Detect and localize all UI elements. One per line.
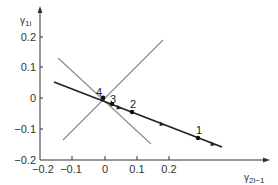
x-tick-label: 0.1 — [129, 163, 144, 175]
point-1 — [196, 136, 200, 140]
point-label: 4 — [96, 86, 102, 98]
x-axis-arrow-icon — [263, 158, 270, 163]
point-label: 1 — [196, 124, 202, 136]
x-ticks — [72, 156, 169, 160]
y-tick-label: −0.1 — [14, 123, 36, 135]
x-tick-label: 0 — [102, 163, 108, 175]
x-tick-label: 0.2 — [161, 163, 176, 175]
chart: 0.2 0.1 0 −0.1 −0.2 −0.2 −0.1 0 0.1 0.2 … — [0, 0, 278, 185]
line-b — [63, 40, 163, 140]
y-tick-label: 0.1 — [21, 61, 36, 73]
y-tick-label: 0 — [30, 92, 36, 104]
y-axis-label: γ1i — [20, 15, 31, 28]
y-axis-arrow-icon — [38, 6, 43, 13]
point-label: 2 — [130, 98, 136, 110]
x-tick-label: −0.2 — [32, 163, 54, 175]
x-axis-label: γ2i−1 — [244, 172, 265, 185]
x-tick-label: −0.1 — [60, 163, 82, 175]
point-2 — [130, 110, 134, 114]
plot-area: 0.2 0.1 0 −0.1 −0.2 −0.2 −0.1 0 0.1 0.2 … — [0, 0, 278, 185]
point-label: 3 — [110, 93, 116, 105]
y-tick-label: 0.2 — [21, 31, 36, 43]
